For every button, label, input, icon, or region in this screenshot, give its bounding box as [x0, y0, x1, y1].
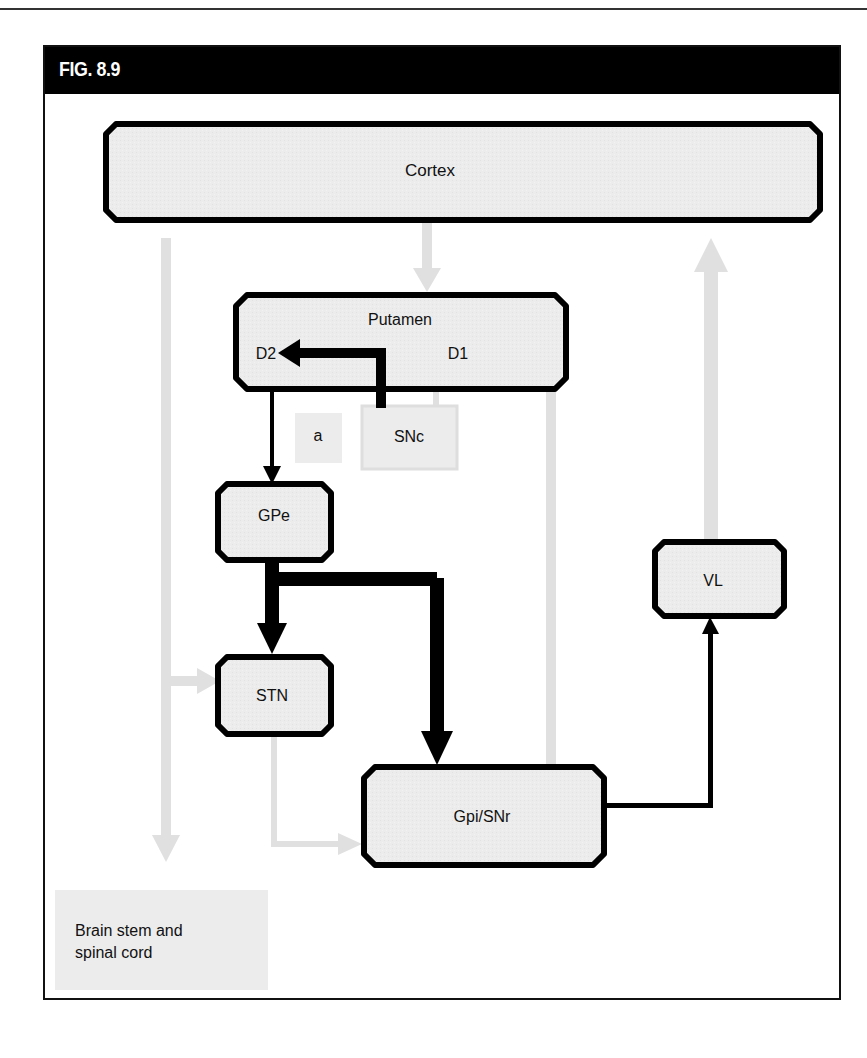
active-pathways — [257, 339, 719, 808]
label-d2: D2 — [256, 345, 276, 363]
node-cortex — [106, 124, 820, 220]
node-putamen — [236, 295, 566, 389]
arrow-cortex-to-stn — [166, 668, 220, 694]
label-brainstem-line2: spinal cord — [75, 944, 152, 961]
label-gpi-snr: Gpi/SNr — [454, 808, 511, 826]
diagram-canvas — [0, 0, 867, 1058]
arrow-putamen-to-gpi — [537, 390, 565, 790]
label-snc: SNc — [394, 428, 424, 446]
arrow-gpi-to-vl — [604, 617, 719, 808]
label-brainstem-line1: Brain stem and — [75, 922, 183, 939]
label-brainstem: Brain stem and spinal cord — [75, 920, 183, 964]
arrow-cortex-to-putamen — [413, 221, 441, 292]
label-gpe: GPe — [258, 507, 290, 525]
label-putamen: Putamen — [368, 311, 432, 329]
label-stn: STN — [256, 687, 288, 705]
arrow-cortex-to-brainstem — [152, 238, 180, 862]
label-cortex: Cortex — [405, 161, 455, 181]
label-d1: D1 — [448, 345, 468, 363]
label-vl: VL — [703, 572, 723, 590]
arrow-vl-to-cortex — [694, 238, 728, 540]
label-a: a — [314, 427, 323, 445]
arrow-stn-to-gpi — [271, 735, 362, 855]
arrow-putamen-to-gpe — [263, 389, 281, 484]
